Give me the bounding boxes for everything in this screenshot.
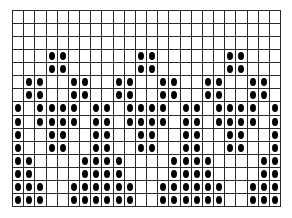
grid-cell xyxy=(47,168,58,181)
grid-cell xyxy=(214,50,225,63)
grid-cell xyxy=(24,102,35,115)
grid-cell xyxy=(24,89,35,102)
grid-cell xyxy=(24,181,35,194)
grid-cell xyxy=(114,142,125,155)
grid-cell xyxy=(181,155,192,168)
dot-icon xyxy=(127,91,133,99)
grid-cell xyxy=(248,50,259,63)
grid-cell xyxy=(80,50,91,63)
dot-icon xyxy=(183,118,189,126)
grid-cell xyxy=(259,102,270,115)
grid-cell xyxy=(58,11,69,24)
grid-cell xyxy=(35,89,46,102)
grid-cell xyxy=(114,181,125,194)
grid-cell xyxy=(236,76,247,89)
grid-cell xyxy=(225,63,236,76)
grid-cell xyxy=(259,50,270,63)
grid-cell xyxy=(158,102,169,115)
dot-icon xyxy=(15,104,21,112)
dot-icon xyxy=(216,196,222,204)
grid-cell xyxy=(58,63,69,76)
dot-icon xyxy=(37,78,43,86)
grid-cell xyxy=(114,37,125,50)
dot-icon xyxy=(205,170,211,178)
grid-cell xyxy=(35,181,46,194)
dot-icon xyxy=(261,183,267,191)
grid-cell xyxy=(259,24,270,37)
dot-icon xyxy=(183,170,189,178)
grid-cell xyxy=(102,102,113,115)
grid-cell xyxy=(236,155,247,168)
grid-cell xyxy=(259,129,270,142)
grid-cell xyxy=(136,50,147,63)
grid-cell xyxy=(203,142,214,155)
grid-cell xyxy=(248,37,259,50)
grid-cell xyxy=(192,63,203,76)
grid-cell xyxy=(158,194,169,207)
dot-icon xyxy=(127,118,133,126)
dot-icon xyxy=(71,183,77,191)
grid-cell xyxy=(147,89,158,102)
grid-cell xyxy=(147,24,158,37)
grid-cell xyxy=(102,50,113,63)
grid-cell xyxy=(69,76,80,89)
dot-icon xyxy=(238,104,244,112)
grid-cell xyxy=(214,168,225,181)
grid-cell xyxy=(270,89,281,102)
dot-icon xyxy=(171,78,177,86)
grid-cell xyxy=(58,181,69,194)
grid-cell xyxy=(69,102,80,115)
grid-cell xyxy=(147,181,158,194)
grid-cell xyxy=(214,142,225,155)
grid-cell xyxy=(192,24,203,37)
grid-cell xyxy=(169,102,180,115)
grid-cell xyxy=(225,168,236,181)
grid-cell xyxy=(114,194,125,207)
dot-icon xyxy=(160,183,166,191)
grid-cell xyxy=(69,168,80,181)
grid-cell xyxy=(58,24,69,37)
grid-cell xyxy=(47,76,58,89)
grid-cell xyxy=(147,37,158,50)
grid-cell xyxy=(236,63,247,76)
grid-cell xyxy=(125,89,136,102)
grid-cell xyxy=(80,181,91,194)
grid-cell xyxy=(169,116,180,129)
grid-cell xyxy=(58,142,69,155)
grid-cell xyxy=(158,181,169,194)
grid-cell xyxy=(13,89,24,102)
grid-cell xyxy=(181,89,192,102)
grid-cell xyxy=(158,155,169,168)
grid-cell xyxy=(248,155,259,168)
dot-icon xyxy=(15,157,21,165)
grid-cell xyxy=(80,116,91,129)
dot-icon xyxy=(238,131,244,139)
grid-cell xyxy=(47,129,58,142)
dot-icon xyxy=(160,78,166,86)
grid-cell xyxy=(47,102,58,115)
dot-icon xyxy=(227,52,233,60)
dot-icon xyxy=(194,183,200,191)
dot-icon xyxy=(250,183,256,191)
grid-cell xyxy=(35,168,46,181)
grid-cell xyxy=(13,102,24,115)
dot-icon xyxy=(160,196,166,204)
grid-cell xyxy=(47,181,58,194)
dot-icon xyxy=(183,157,189,165)
dot-icon xyxy=(261,91,267,99)
dot-icon xyxy=(127,196,133,204)
dot-icon xyxy=(194,144,200,152)
grid-cell xyxy=(248,76,259,89)
dot-icon xyxy=(261,196,267,204)
dot-icon xyxy=(93,196,99,204)
grid-cell xyxy=(13,155,24,168)
dot-icon xyxy=(171,183,177,191)
grid-cell xyxy=(225,194,236,207)
dot-icon xyxy=(82,78,88,86)
dot-icon xyxy=(37,104,43,112)
dot-icon xyxy=(82,196,88,204)
grid-cell xyxy=(125,168,136,181)
grid-cell xyxy=(80,194,91,207)
grid-cell xyxy=(24,24,35,37)
dot-icon xyxy=(272,144,278,152)
